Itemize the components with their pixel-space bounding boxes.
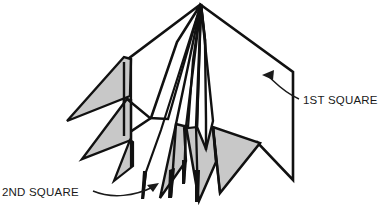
flap-tip-left [141,171,147,199]
callout-second-square: 2ND SQUARE [2,183,159,198]
flap-tip-center-left [168,168,175,198]
arrowhead-second-square [147,183,159,192]
flap-tip-center-right [182,160,187,184]
origami-diagram-canvas: 1ST SQUARE 2ND SQUARE [0,0,385,207]
origami-figure: 1ST SQUARE 2ND SQUARE [0,0,385,207]
label-first-square: 1ST SQUARE [303,94,378,106]
label-second-square: 2ND SQUARE [2,186,79,198]
